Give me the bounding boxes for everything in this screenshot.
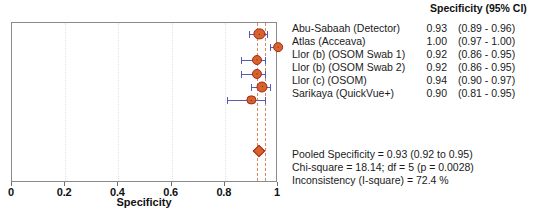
specificity-value: 0.93 — [415, 22, 447, 34]
gridline — [172, 23, 173, 181]
study-estimate-marker — [247, 95, 256, 104]
confidence-interval-value: (0.86 - 0.95) — [458, 61, 515, 73]
specificity-value: 0.92 — [415, 48, 447, 60]
gridline — [65, 23, 66, 181]
study-name: Atlas (Acceava) — [292, 35, 366, 47]
confidence-interval-value: (0.89 - 0.96) — [458, 22, 515, 34]
confidence-interval-cap — [241, 57, 242, 64]
gridline — [225, 23, 226, 181]
study-name: Sarikaya (QuickVue+) — [292, 87, 394, 99]
study-estimate-marker — [252, 69, 262, 79]
confidence-interval-value: (0.81 - 0.95) — [458, 87, 515, 99]
study-estimate-marker — [254, 28, 265, 39]
study-estimate-marker — [257, 81, 268, 92]
confidence-interval-cap — [265, 57, 266, 64]
confidence-interval-cap — [251, 84, 252, 91]
inconsistency-text: Inconsistency (I-square) = 72.4 % — [292, 174, 550, 187]
x-axis-ticks — [11, 182, 277, 187]
confidence-interval-value: (0.86 - 0.95) — [458, 48, 515, 60]
confidence-interval-value: (0.90 - 0.97) — [458, 74, 515, 86]
specificity-value: 0.94 — [415, 74, 447, 86]
pooled-reference-line — [257, 23, 258, 181]
results-table: Specificity (95% CI) Abu-Sabaah (Detecto… — [290, 0, 552, 208]
specificity-value: 0.92 — [415, 61, 447, 73]
table-row: Abu-Sabaah (Detector)0.93(0.89 - 0.96) — [290, 22, 552, 35]
confidence-interval-cap — [267, 31, 268, 38]
confidence-interval-value: (0.97 - 1.00) — [458, 35, 515, 47]
pooled-specificity-text: Pooled Specificity = 0.93 (0.92 to 0.95) — [292, 148, 550, 161]
confidence-interval-cap — [270, 84, 271, 91]
study-estimate-marker — [273, 42, 283, 52]
confidence-interval-cap — [265, 97, 266, 104]
table-row: Sarikaya (QuickVue+)0.90(0.81 - 0.95) — [290, 87, 552, 100]
confidence-interval-cap — [227, 97, 228, 104]
table-row: Llor (b) (OSOM Swab 2)0.92(0.86 - 0.95) — [290, 61, 552, 74]
confidence-interval-cap — [249, 31, 250, 38]
study-name: Abu-Sabaah (Detector) — [292, 22, 400, 34]
plot-panel: 00.20.40.60.81 Specificity — [0, 0, 290, 208]
summary-statistics: Pooled Specificity = 0.93 (0.92 to 0.95)… — [292, 148, 550, 187]
plot-area — [11, 22, 277, 182]
gridline — [118, 23, 119, 181]
study-name: Llor (b) (OSOM Swab 1) — [292, 48, 405, 60]
confidence-interval-cap — [241, 71, 242, 78]
study-name: Llor (c) (OSOM) — [292, 74, 367, 86]
table-row: Llor (b) (OSOM Swab 1)0.92(0.86 - 0.95) — [290, 48, 552, 61]
study-name: Llor (b) (OSOM Swab 2) — [292, 61, 405, 73]
forest-plot-figure: 00.20.40.60.81 Specificity Specificity (… — [0, 0, 552, 208]
x-axis-title: Specificity — [11, 196, 277, 208]
confidence-interval-cap — [270, 44, 271, 51]
specificity-value: 0.90 — [415, 87, 447, 99]
specificity-value: 1.00 — [415, 35, 447, 47]
table-row: Llor (c) (OSOM)0.94(0.90 - 0.97) — [290, 74, 552, 87]
confidence-interval-cap — [265, 71, 266, 78]
table-body: Abu-Sabaah (Detector)0.93(0.89 - 0.96)At… — [290, 22, 552, 100]
table-column-header: Specificity (95% CI) — [430, 2, 527, 14]
study-estimate-marker — [252, 55, 262, 65]
table-row: Atlas (Acceava)1.00(0.97 - 1.00) — [290, 35, 552, 48]
chi-square-text: Chi-square = 18.14; df = 5 (p = 0.0028) — [292, 161, 550, 174]
